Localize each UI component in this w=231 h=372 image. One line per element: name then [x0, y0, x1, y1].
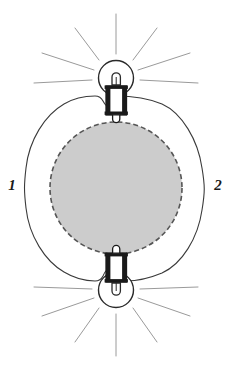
ray-top-left-flat	[34, 80, 92, 83]
ray-top-upright-steep	[133, 28, 157, 60]
bulb-top-contact-tip	[113, 115, 120, 123]
shaded-circle	[50, 122, 182, 254]
bulb-top-socket-rail-left	[106, 86, 110, 115]
ray-top-upright-shallow	[138, 53, 190, 70]
ray-bottom-downright-shallow	[138, 298, 190, 316]
ray-bottom-left-flat	[34, 287, 92, 289]
bulb-bottom-socket-collar-lower	[105, 279, 128, 282]
label-left-1: 1	[8, 177, 16, 193]
bulb-bottom-socket-rail-left	[106, 253, 110, 282]
light-bulb-top	[99, 61, 134, 123]
light-bulb-bottom	[99, 245, 134, 307]
ray-bottom-downleft-steep	[75, 308, 99, 342]
ray-top-upleft-steep	[75, 28, 99, 60]
ray-bottom-downright-steep	[133, 308, 157, 342]
label-right-2: 2	[213, 177, 222, 193]
ray-bottom-right-flat	[140, 287, 198, 289]
figure-container: 1 2	[0, 0, 231, 372]
bulb-bottom-socket-rail-right	[122, 253, 126, 282]
ray-top-upleft-shallow	[42, 53, 94, 70]
bulb-top-socket-rail-right	[122, 86, 126, 115]
diagram-canvas: 1 2	[0, 0, 231, 372]
bulb-top-socket-collar-upper	[105, 86, 128, 89]
ray-bottom-downleft-shallow	[42, 298, 94, 316]
ray-top-right-flat	[140, 80, 198, 83]
bulb-bottom-contact-tip	[113, 245, 120, 253]
